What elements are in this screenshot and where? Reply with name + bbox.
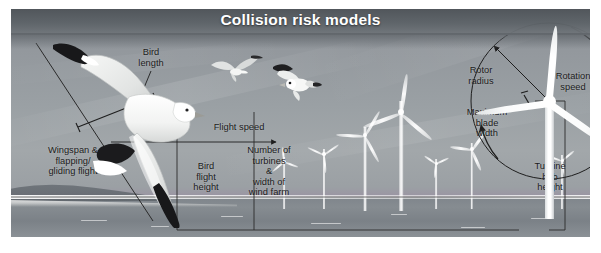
primary-gull [33, 33, 213, 228]
turbine-blade [546, 25, 560, 103]
figure-plate: Collision risk models Bird length Wingsp… [11, 9, 590, 237]
primary-wind-turbine [471, 23, 590, 219]
gull-small-b [257, 61, 323, 105]
turbine-tower [545, 101, 554, 219]
collision-risk-figure: Collision risk models Bird length Wingsp… [0, 0, 601, 253]
turbine-blade [475, 100, 549, 117]
turbine-hub [543, 95, 556, 108]
